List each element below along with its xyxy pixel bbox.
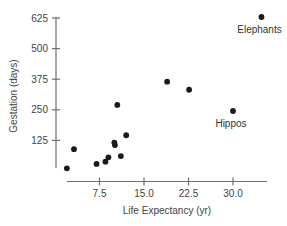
data-point xyxy=(118,153,124,159)
x-axis: 7.515.022.530.0 xyxy=(67,178,267,200)
annotation-elephants: Elephants xyxy=(237,24,281,35)
x-axis-title: Life Expectancy (yr) xyxy=(123,205,211,216)
x-tick-label: 7.5 xyxy=(93,188,107,199)
data-points xyxy=(64,14,264,171)
data-point xyxy=(106,154,112,160)
scatter-plot: 125250375500625 7.515.022.530.0 Gestatio… xyxy=(0,0,287,226)
x-tick-label: 15.0 xyxy=(134,188,154,199)
data-point xyxy=(71,146,77,152)
y-axis: 125250375500625 xyxy=(31,13,60,169)
y-tick-label: 375 xyxy=(31,74,48,85)
point-annotations: ElephantsHippos xyxy=(215,24,281,129)
y-tick-label: 250 xyxy=(31,104,48,115)
x-tick-label: 22.5 xyxy=(179,188,199,199)
annotation-hippos: Hippos xyxy=(215,118,246,129)
data-point xyxy=(164,79,170,85)
data-point xyxy=(114,102,120,108)
data-point xyxy=(259,14,265,20)
y-axis-title: Gestation (days) xyxy=(8,59,19,132)
data-point xyxy=(186,87,192,93)
data-point xyxy=(64,165,70,171)
x-tick-label: 30.0 xyxy=(223,188,243,199)
data-point xyxy=(123,132,129,138)
y-tick-label: 125 xyxy=(31,135,48,146)
data-point xyxy=(230,108,236,114)
y-tick-label: 625 xyxy=(31,13,48,24)
data-point xyxy=(94,161,100,167)
y-tick-label: 500 xyxy=(31,43,48,54)
data-point xyxy=(112,142,118,148)
